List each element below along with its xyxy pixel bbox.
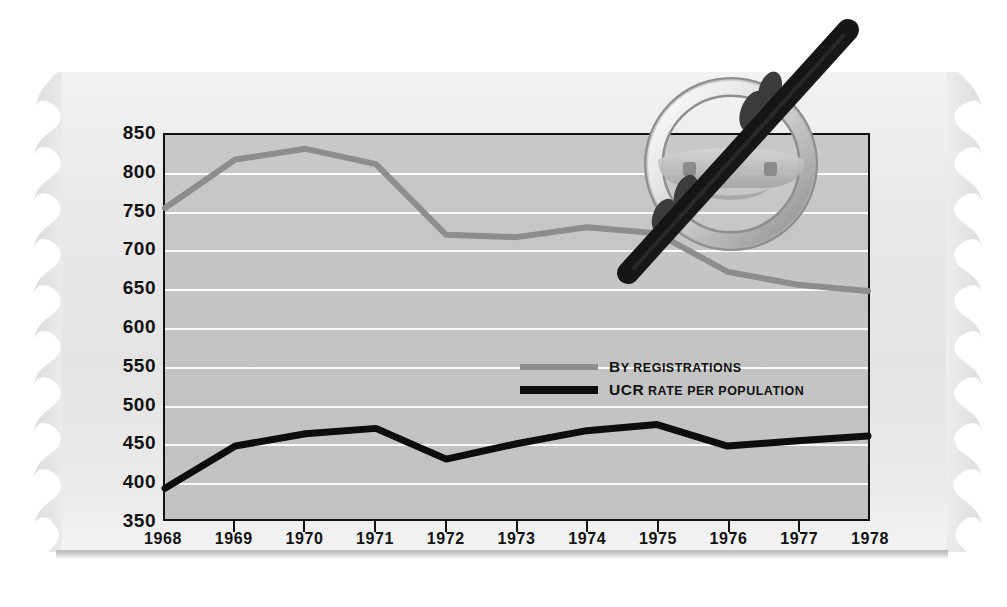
legend-item-registrations: BY REGISTRATIONS: [520, 355, 860, 378]
x-axis-tick-label: 1978: [851, 530, 889, 548]
y-axis-tick-label: 350: [123, 510, 156, 532]
y-axis-tick-label: 800: [123, 161, 156, 183]
x-axis-tick-label: 1971: [356, 530, 394, 548]
x-axis-tick-label: 1975: [639, 530, 677, 548]
chart-canvas: 850800750700650600550500450400350 196819…: [0, 0, 1007, 607]
y-axis-tick-label: 550: [123, 355, 156, 377]
chart-legend: BY REGISTRATIONS UCR RATE PER POPULATION: [520, 355, 860, 401]
y-axis-tick-label: 850: [123, 122, 156, 144]
y-axis-tick-label: 700: [123, 238, 156, 260]
legend-swatch-gray: [520, 364, 598, 370]
y-axis-tick-label: 600: [123, 316, 156, 338]
y-axis-tick-label: 500: [123, 394, 156, 416]
x-axis-tick-label: 1976: [710, 530, 748, 548]
series-line-registrations: [165, 149, 868, 291]
x-axis-labels: 1968196919701971197219731974197519761977…: [0, 530, 1007, 560]
y-axis-tick-label: 400: [123, 471, 156, 493]
y-axis-tick-label: 450: [123, 432, 156, 454]
plot-area: [163, 133, 870, 521]
legend-swatch-black: [520, 386, 598, 394]
y-axis-tick-label: 650: [123, 277, 156, 299]
x-axis-tick-label: 1973: [498, 530, 536, 548]
series-layer: [165, 135, 868, 519]
y-axis-tick-label: 750: [123, 200, 156, 222]
y-axis-labels: 850800750700650600550500450400350: [84, 127, 156, 527]
torn-edge-right: [946, 72, 980, 552]
legend-item-ucr: UCR RATE PER POPULATION: [520, 378, 860, 401]
x-axis-tick-label: 1968: [144, 530, 182, 548]
legend-label-ucr: UCR RATE PER POPULATION: [609, 381, 804, 399]
legend-label-registrations: BY REGISTRATIONS: [609, 358, 742, 376]
x-axis-tick-label: 1977: [780, 530, 818, 548]
x-axis-tick-label: 1974: [568, 530, 606, 548]
x-axis-tick-label: 1969: [215, 530, 253, 548]
series-line-ucr: [165, 425, 868, 489]
x-axis-tick-label: 1972: [427, 530, 465, 548]
x-axis-tick-label: 1970: [285, 530, 323, 548]
